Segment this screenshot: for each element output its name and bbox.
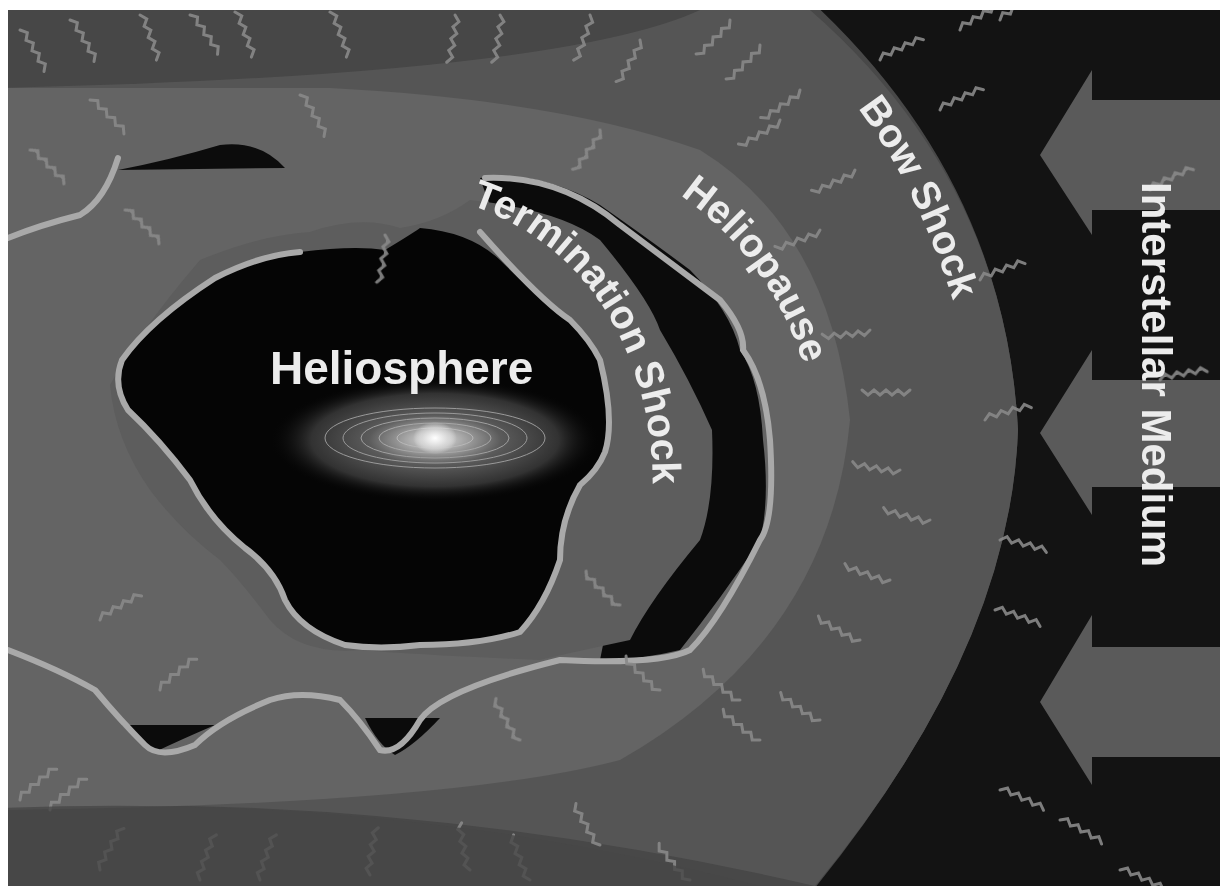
heliosphere-label: Heliosphere bbox=[270, 342, 533, 394]
heliosphere-diagram: Heliosphere Termination Shock Heliopause… bbox=[0, 0, 1222, 894]
solar-system-disc-icon bbox=[270, 378, 600, 502]
interstellar-medium-label: Interstellar Medium bbox=[1133, 182, 1180, 567]
interstellar-flow-arrows bbox=[1040, 70, 1222, 785]
